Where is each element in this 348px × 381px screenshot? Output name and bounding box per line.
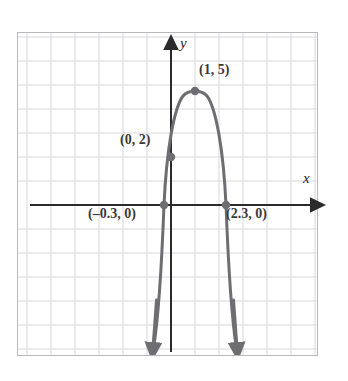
label-y-intercept: (0, 2) xyxy=(120,132,150,148)
point-y-intercept xyxy=(167,153,175,161)
point-vertex xyxy=(191,87,199,95)
parabola-figure: (1, 5) (0, 2) (–0.3, 0) (2.3, 0) x y xyxy=(0,0,348,381)
x-axis-label: x xyxy=(303,170,310,187)
label-root-left: (–0.3, 0) xyxy=(88,206,136,222)
grid-lines-group xyxy=(18,33,317,355)
label-root-right: (2.3, 0) xyxy=(226,206,267,222)
label-vertex: (1, 5) xyxy=(199,62,229,78)
grid-horizontal-lines xyxy=(18,37,317,349)
graph-canvas xyxy=(0,0,348,381)
point-root-left xyxy=(160,201,168,209)
y-axis-label: y xyxy=(180,35,187,52)
